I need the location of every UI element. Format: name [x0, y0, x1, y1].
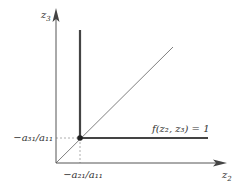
kink-point — [77, 135, 83, 141]
z3-tick-label: −a₃₁/a₁₁ — [13, 132, 53, 143]
z2-tick-label: −a₂₁/a₁₁ — [63, 169, 103, 180]
z3-label: z3 — [40, 9, 51, 23]
level-set-label: f(z₂, z₃) = 1 — [151, 123, 210, 134]
diagonal-line — [56, 47, 173, 163]
z2-label: z2 — [221, 169, 232, 183]
diagram-canvas: z3 z2 −a₃₁/a₁₁ −a₂₁/a₁₁ f(z₂, z₃) = 1 — [0, 0, 242, 185]
